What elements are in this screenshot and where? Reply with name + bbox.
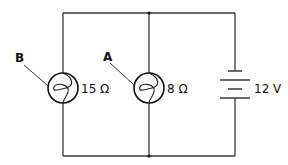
- junction-bottom: [147, 154, 150, 157]
- battery: 12 V: [220, 71, 282, 98]
- lamp-b-bulb-icon: [48, 73, 78, 103]
- lamp-a: A 8 Ω: [103, 50, 188, 103]
- battery-voltage: 12 V: [254, 82, 282, 96]
- circuit-diagram: B 15 Ω A 8 Ω 12 V: [0, 0, 288, 165]
- lamp-a-bulb-icon: [134, 73, 164, 103]
- lamp-b-resistance: 15 Ω: [81, 82, 109, 96]
- lamp-a-resistance: 8 Ω: [167, 82, 188, 96]
- lamp-b-leader-line: [24, 65, 47, 85]
- lamp-a-leader-line: [110, 63, 134, 85]
- lamp-b-label: B: [15, 51, 24, 65]
- junction-top: [147, 11, 150, 14]
- lamp-b: B 15 Ω: [15, 51, 109, 103]
- lamp-a-label: A: [103, 50, 113, 64]
